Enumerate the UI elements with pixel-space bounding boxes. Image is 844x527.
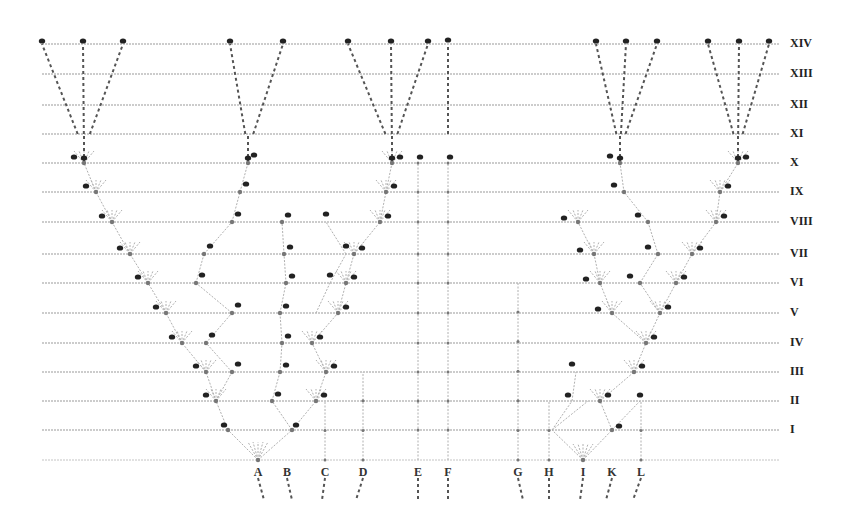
generation-label: XIII xyxy=(790,66,813,81)
branch xyxy=(640,254,658,283)
branch xyxy=(280,313,282,343)
branch-node xyxy=(310,341,314,345)
variety-mark xyxy=(743,154,749,159)
variety-mark xyxy=(635,212,641,217)
branch-node xyxy=(314,399,318,403)
variety-mark xyxy=(243,181,249,186)
branch-node xyxy=(417,371,420,374)
generation-label: VIII xyxy=(790,214,813,229)
branch-node xyxy=(447,253,450,256)
branch-node xyxy=(592,252,596,256)
branch xyxy=(272,401,292,430)
variety-mark xyxy=(766,38,772,43)
variety-mark xyxy=(81,155,87,160)
branch-node xyxy=(164,311,168,315)
branch xyxy=(572,372,576,401)
branch-node xyxy=(658,311,662,315)
branch xyxy=(312,343,326,372)
branch-node xyxy=(278,370,282,374)
branch xyxy=(612,313,646,343)
dashed-lineage xyxy=(397,44,428,134)
variety-mark xyxy=(343,304,349,309)
branch-node xyxy=(82,161,86,165)
branch-node xyxy=(638,281,642,285)
branch-node xyxy=(690,252,694,256)
species-label: K xyxy=(607,465,616,480)
branch-node xyxy=(362,459,365,462)
dashed-lineage xyxy=(83,44,84,134)
lineage-nodes xyxy=(39,37,772,462)
dashed-lineage xyxy=(230,44,245,134)
branch xyxy=(594,242,604,254)
branch-node xyxy=(417,429,420,432)
branch-node xyxy=(447,162,450,165)
dashed-lineage xyxy=(391,44,392,134)
dashed-lineage xyxy=(348,44,385,134)
variety-mark xyxy=(725,183,731,188)
variety-mark xyxy=(207,243,213,248)
branch-node xyxy=(674,281,678,285)
branch xyxy=(258,430,292,460)
tree-of-life-diagram xyxy=(0,0,844,527)
branch-node xyxy=(548,459,551,462)
variety-mark xyxy=(293,422,299,427)
branch xyxy=(206,343,232,372)
variety-mark xyxy=(447,154,453,159)
branch-node xyxy=(280,341,284,345)
branch xyxy=(326,222,346,254)
species-label: H xyxy=(544,465,553,480)
branch-node xyxy=(417,342,420,345)
variety-mark xyxy=(637,392,643,397)
branch-node xyxy=(447,221,450,224)
generation-label: IV xyxy=(790,335,803,350)
branch xyxy=(590,389,600,401)
dashed-lineage xyxy=(287,478,292,500)
branch xyxy=(578,210,588,222)
branch-node xyxy=(146,281,150,285)
variety-mark xyxy=(417,154,423,159)
branch xyxy=(166,301,176,313)
variety-mark xyxy=(605,392,611,397)
species-label: I xyxy=(581,465,586,480)
branch xyxy=(692,222,716,254)
dashed-lineage xyxy=(258,478,264,500)
branch xyxy=(590,271,600,283)
branch xyxy=(600,283,612,313)
branch-lines xyxy=(74,151,748,460)
variety-mark xyxy=(317,334,323,339)
variety-mark xyxy=(665,304,671,309)
branch xyxy=(216,389,226,401)
branch-node xyxy=(644,341,648,345)
variety-mark xyxy=(135,274,141,279)
variety-mark xyxy=(199,272,205,277)
branch-node xyxy=(362,429,365,432)
dashed-lineages xyxy=(42,44,769,500)
branch-node xyxy=(324,429,327,432)
branch-node xyxy=(447,191,450,194)
branch xyxy=(640,283,660,313)
generation-label: I xyxy=(790,422,795,437)
branch-node xyxy=(598,281,602,285)
variety-mark xyxy=(71,154,77,159)
branch-node xyxy=(598,399,602,403)
branch xyxy=(602,301,612,313)
branch-node xyxy=(618,161,622,165)
branch xyxy=(612,301,622,313)
variety-mark xyxy=(681,274,687,279)
variety-mark xyxy=(283,303,289,308)
species-label: L xyxy=(637,465,645,480)
branch-node xyxy=(94,190,98,194)
dashed-lineage xyxy=(606,478,612,500)
variety-mark xyxy=(705,38,711,43)
branch xyxy=(376,180,386,192)
branch xyxy=(312,313,338,343)
branch xyxy=(130,242,140,254)
branch-node xyxy=(610,428,614,432)
variety-mark xyxy=(283,362,289,367)
variety-mark xyxy=(289,273,295,278)
branch-node xyxy=(447,400,450,403)
generation-label: XI xyxy=(790,126,803,141)
dashed-lineage xyxy=(518,478,523,500)
variety-mark xyxy=(583,276,589,281)
branch-node xyxy=(517,311,520,314)
